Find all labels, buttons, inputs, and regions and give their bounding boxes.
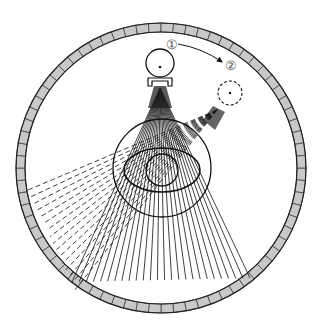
detector-element: [16, 155, 26, 168]
label-position-2: ②: [225, 58, 237, 73]
focal-spot-1: [159, 66, 162, 69]
detector-element: [296, 155, 306, 168]
label-position-1: ①: [166, 37, 178, 52]
beam-position-1: [72, 86, 250, 282]
xray-ray: [160, 88, 250, 278]
xray-ray: [160, 88, 193, 279]
detector-element: [296, 168, 306, 181]
detector-element: [148, 23, 161, 33]
tube-1-circle: [146, 49, 174, 77]
arrow-icon: [178, 44, 222, 62]
ct-scanner-svg: ① ②: [0, 0, 322, 333]
xray-ray: [115, 88, 160, 281]
xray-source-1: [146, 49, 174, 86]
detector-element: [161, 23, 174, 33]
rotation-arrow: [178, 44, 222, 62]
focal-spot-2: [229, 92, 231, 94]
detector-element: [161, 303, 174, 313]
detector-element: [148, 303, 161, 313]
ct-diagram: ① ②: [0, 0, 322, 333]
xray-ray: [160, 88, 207, 279]
detector-element: [16, 168, 26, 181]
xray-source-2: [218, 81, 242, 105]
xray-ray: [86, 88, 160, 282]
xray-ray: [31, 110, 217, 197]
collimator-1: [148, 78, 172, 86]
